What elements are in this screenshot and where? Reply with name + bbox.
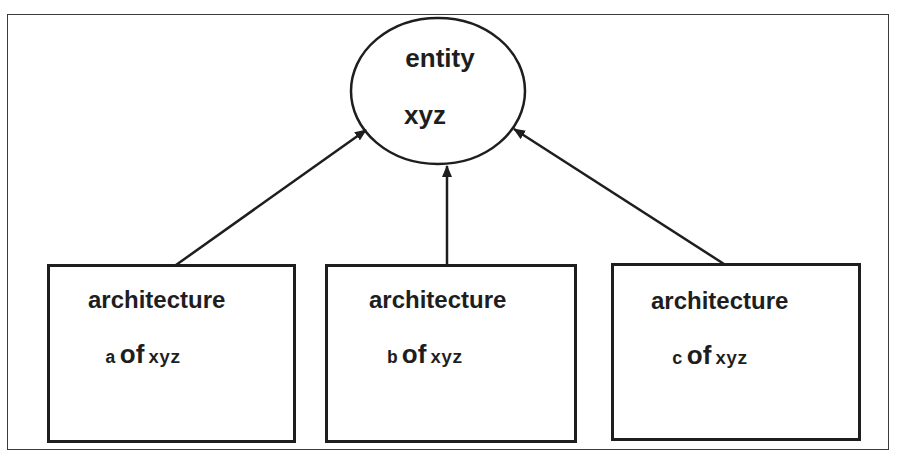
architecture-b-title: architecture (369, 286, 506, 314)
arrow-a-to-entity (176, 130, 366, 265)
architecture-a-of: of (120, 339, 145, 369)
architecture-b-box: architecture b of xyz (325, 264, 577, 443)
architecture-c-title: architecture (651, 287, 788, 315)
entity-title: entity (380, 43, 500, 74)
architecture-b-target: xyz (430, 348, 462, 368)
architecture-c-of: of (687, 340, 712, 370)
architecture-b-subtitle: b of xyz (387, 339, 463, 370)
architecture-c-letter: c (672, 349, 683, 369)
architecture-a-target: xyz (148, 348, 180, 368)
architecture-c-subtitle: c of xyz (672, 340, 748, 371)
architecture-a-box: architecture a of xyz (47, 264, 296, 443)
architecture-a-title: architecture (88, 286, 225, 314)
entity-ellipse (351, 18, 525, 164)
architecture-a-subtitle: a of xyz (105, 339, 181, 370)
architecture-c-box: architecture c of xyz (611, 263, 861, 441)
architecture-c-target: xyz (715, 349, 747, 369)
arrow-c-to-entity (514, 129, 724, 264)
architecture-b-of: of (402, 339, 427, 369)
architecture-b-letter: b (387, 348, 398, 368)
architecture-a-letter: a (105, 348, 116, 368)
entity-subtitle: xyz (380, 100, 504, 131)
